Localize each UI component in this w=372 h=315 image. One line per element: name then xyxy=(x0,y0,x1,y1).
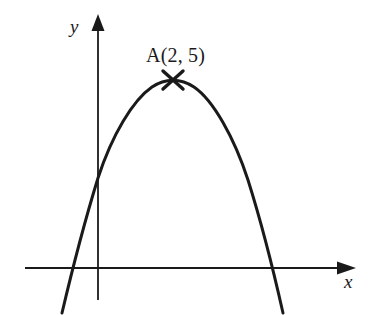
parabola-figure: y x A(2, 5) xyxy=(0,0,372,315)
y-axis-arrowhead xyxy=(92,14,105,31)
x-axis-label: x xyxy=(344,272,352,291)
y-axis-label: y xyxy=(70,17,78,36)
vertex-point-label: A(2, 5) xyxy=(146,45,205,65)
parabola-curve xyxy=(62,80,283,313)
